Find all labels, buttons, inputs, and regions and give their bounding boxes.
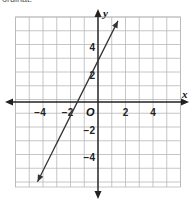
- y-tick-label: −4: [84, 152, 96, 163]
- y-axis-label: y: [101, 7, 108, 19]
- y-axis-arrow-up-icon: [95, 9, 102, 17]
- coordinate-plane: −4−22442−2−4 x y O: [0, 0, 193, 202]
- x-tick-label: −4: [34, 107, 46, 118]
- y-tick-label: 4: [89, 42, 95, 53]
- y-tick-label: −2: [84, 125, 96, 136]
- y-axis-arrow-down-icon: [95, 191, 102, 199]
- axes: [5, 9, 189, 199]
- origin-label: O: [86, 106, 95, 118]
- x-axis-arrow-left-icon: [5, 99, 13, 106]
- x-tick-label: 4: [150, 107, 156, 118]
- x-tick-label: 2: [123, 107, 129, 118]
- x-axis-label: x: [181, 88, 188, 100]
